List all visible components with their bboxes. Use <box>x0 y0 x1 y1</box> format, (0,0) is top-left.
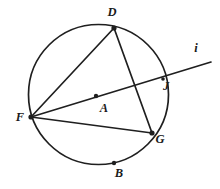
line-label-i: i <box>194 41 198 55</box>
point-g-dot <box>149 130 154 135</box>
point-label-j: J <box>162 79 170 93</box>
chord-fg <box>31 117 152 133</box>
point-d-dot <box>111 25 116 30</box>
point-label-a: A <box>99 101 108 115</box>
point-label-f: F <box>15 110 25 124</box>
point-label-g: G <box>155 132 164 146</box>
geometry-canvas: D F G J A B i <box>0 0 220 189</box>
point-f-dot <box>28 114 33 119</box>
secant-line-i <box>31 62 211 117</box>
point-a-center-dot <box>94 94 98 98</box>
geometry-diagram: D F G J A B i <box>0 0 220 189</box>
point-b-dot <box>112 161 116 165</box>
point-label-b: B <box>114 166 123 180</box>
point-label-d: D <box>106 5 116 19</box>
